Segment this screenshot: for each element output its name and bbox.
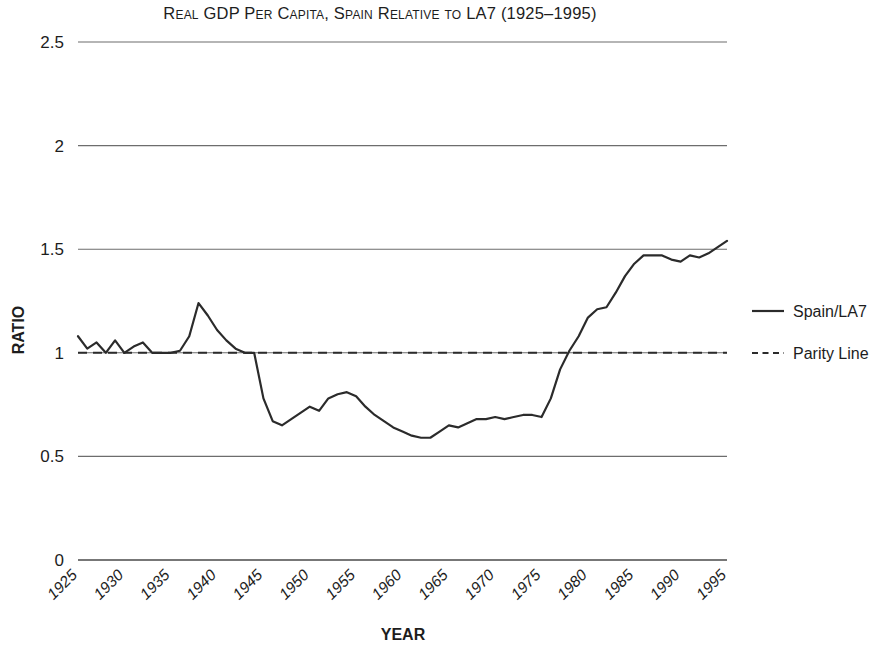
x-tick-label: 1970 — [461, 566, 498, 603]
y-axis-title: RATIO — [10, 306, 27, 355]
x-tick-label: 1940 — [183, 566, 220, 603]
y-tick-label: 0.5 — [40, 447, 64, 466]
legend: Spain/LA7 Parity Line — [752, 303, 869, 362]
x-tick-label: 1955 — [322, 566, 359, 603]
y-tick-label: 1 — [55, 344, 64, 363]
x-tick-label: 1960 — [368, 566, 405, 603]
x-tick-label: 1990 — [646, 566, 683, 603]
y-tick-label: 2 — [55, 137, 64, 156]
x-tick-label: 1975 — [507, 566, 544, 603]
x-axis-title: YEAR — [381, 626, 426, 643]
x-tick-label: 1945 — [229, 566, 266, 603]
y-tick-label: 2.5 — [40, 33, 64, 52]
x-tick-label: 1930 — [90, 566, 127, 603]
y-tick-label: 1.5 — [40, 240, 64, 259]
gridline-group — [78, 42, 727, 560]
x-tick-label: 1935 — [136, 566, 173, 603]
x-tick-label: 1980 — [554, 566, 591, 603]
x-tick-label: 1925 — [44, 566, 81, 603]
legend-label-spain-la7: Spain/LA7 — [793, 303, 867, 320]
y-tick-label: 0 — [55, 551, 64, 570]
x-tick-label: 1995 — [693, 566, 730, 603]
chart-figure: Real GDP Per Capita, Spain Relative to L… — [0, 0, 887, 649]
x-tick-label: 1950 — [276, 566, 313, 603]
x-axis-tick-labels: 1925193019351940194519501955196019651970… — [44, 566, 730, 603]
x-tick-label: 1985 — [600, 566, 637, 603]
chart-svg: 00.511.522.5 192519301935194019451950195… — [0, 0, 887, 649]
x-tick-label: 1965 — [415, 566, 452, 603]
y-axis-tick-labels: 00.511.522.5 — [40, 33, 64, 570]
legend-label-parity-line: Parity Line — [793, 345, 869, 362]
spain-la7-line-series — [78, 241, 727, 438]
